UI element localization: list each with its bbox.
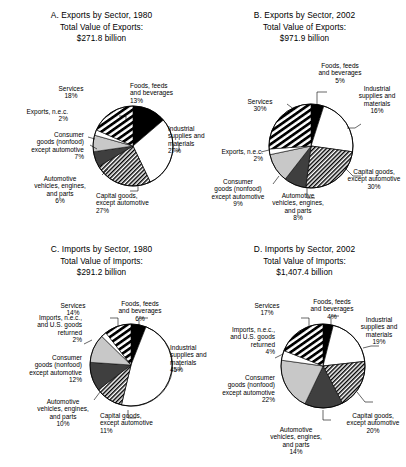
panel-d-pie-area: Foods, feeds and beverages 4% Industrial… [203,234,406,467]
label-services-d: Services 17% [243,302,291,317]
panel-d-imports-2002: D. Imports by Sector, 2002 Total Value o… [203,234,406,467]
label-industrial-b: Industrial supplies and materials 16% [351,85,403,115]
label-consumer-d: Consumer goods (nonfood) except automoti… [189,374,275,404]
label-industrial-a: Industrial supplies and materials 27% [168,125,208,155]
label-consumer-a: Consumer goods (nonfood) except automoti… [2,131,84,161]
label-services-b: Services 30% [235,98,285,113]
panel-a-pie[interactable] [92,105,174,187]
label-capital-b: Capital goods, except automotive 30% [341,168,406,190]
panel-b-exports-2002: B. Exports by Sector, 2002 Total Value o… [203,0,406,233]
label-foods-c: Foods, feeds and beverages 6% [106,300,174,322]
label-capital-c: Capital goods, except automotive 11% [100,412,170,434]
label-automotive-a: Automotive vehicles, engines, and parts … [28,175,92,205]
label-nec-b: Exports, n.e.c. 2% [203,148,263,163]
label-foods-a: Foods, feeds and beverages 13% [130,82,192,104]
label-capital-d: Capital goods, except automotive 20% [339,412,406,434]
panel-c-imports-1980: C. Imports by Sector, 1980 Total Value o… [0,234,203,467]
panel-c-pie-area: Foods, feeds and beverages 6% Industrial… [0,234,203,467]
panel-a-pie-area: Foods, feeds and beverages 13% Industria… [0,0,203,233]
label-nec-a: Exports, n.e.c. 2% [6,108,68,123]
label-services-c: Services 14% [50,302,96,317]
panel-a-exports-1980: A. Exports by Sector, 1980 Total Value o… [0,0,203,233]
panel-c-pie[interactable] [88,322,174,408]
figure-sheet: A. Exports by Sector, 1980 Total Value o… [0,0,406,467]
label-automotive-c: Automotive vehicles, engines, and parts … [30,398,96,428]
label-consumer-c: Consumer goods (nonfood) except automoti… [0,354,82,384]
label-capital-a: Capital goods, except automotive 27% [96,192,168,214]
label-services-a: Services 18% [48,85,94,100]
panel-b-pie-area: Foods, feeds and beverages 5% Industrial… [203,0,406,233]
label-automotive-d: Automotive vehicles, engines, and parts … [261,426,331,456]
label-nec-c: Imports, n.e.c., and U.S. goods returned… [8,314,82,344]
label-industrial-d: Industrial supplies and materials 19% [353,316,405,346]
label-nec-d: Imports, n.e.c., and U.S. goods returned… [199,326,275,356]
label-foods-b: Foods, feeds and beverages 5% [307,62,373,84]
label-consumer-b: Consumer goods (nonfood) except automoti… [199,178,277,208]
